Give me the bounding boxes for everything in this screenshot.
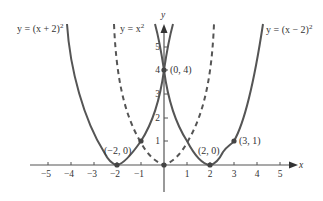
- point-neg2-0: [114, 162, 119, 167]
- point-2-0: [207, 162, 212, 167]
- y-axis-label: y: [160, 10, 166, 20]
- point-origin: [161, 162, 166, 167]
- label-left-curve: y = (x + 2)2: [17, 22, 64, 35]
- point-3-1: [231, 138, 236, 143]
- annotation-neg2-0: (−2, 0): [104, 145, 131, 157]
- svg-text:4: 4: [155, 65, 160, 75]
- svg-text:5: 5: [278, 169, 283, 179]
- svg-text:2: 2: [155, 113, 160, 123]
- svg-text:−1: −1: [134, 169, 144, 179]
- point-neg1-1: [138, 138, 143, 143]
- svg-text:1: 1: [155, 136, 160, 146]
- svg-text:−4: −4: [64, 169, 74, 179]
- x-tick-labels: −5 −4 −3 −2 −1 1 2 3 4 5: [41, 169, 283, 179]
- annotation-3-1: (3, 1): [239, 135, 261, 147]
- svg-text:1: 1: [185, 169, 190, 179]
- svg-text:4: 4: [255, 169, 260, 179]
- label-middle-curve: y = x2: [120, 22, 145, 34]
- svg-text:−3: −3: [87, 169, 97, 179]
- annotation-2-0: (2, 0): [198, 145, 220, 157]
- svg-text:2: 2: [208, 169, 213, 179]
- annotation-0-4: (0, 4): [170, 64, 192, 76]
- svg-text:3: 3: [232, 169, 237, 179]
- svg-text:−5: −5: [41, 169, 51, 179]
- point-0-4: [161, 67, 166, 72]
- x-axis-label: x: [298, 160, 304, 170]
- svg-text:−2: −2: [110, 169, 120, 179]
- label-right-curve: y = (x − 2)2: [266, 23, 313, 36]
- parabola-translation-graph: x y −5 −4 −3 −2 −1 1 2 3 4 5: [0, 0, 323, 201]
